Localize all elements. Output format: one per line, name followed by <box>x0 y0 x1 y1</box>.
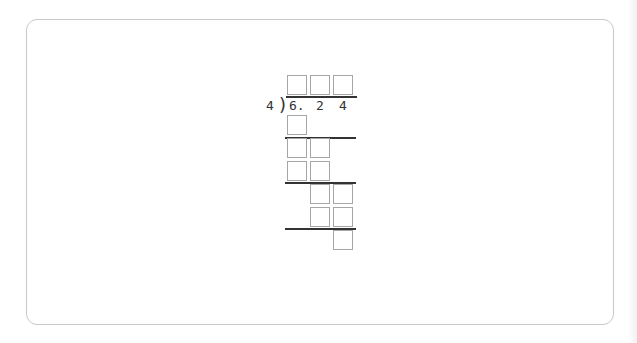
dividend-digit-2: 2 <box>316 99 324 112</box>
work-box-r4-c2[interactable] <box>310 184 330 204</box>
work-box-r3-c2[interactable] <box>310 161 330 181</box>
page: 4 ) 6. 2 4 <box>0 0 637 343</box>
work-box-r5-c3[interactable] <box>333 207 353 227</box>
work-box-r2-c1[interactable] <box>287 138 307 158</box>
dividend-digit-1: 6. <box>289 99 305 112</box>
work-box-r1-c1[interactable] <box>287 115 307 135</box>
remainder-box[interactable] <box>333 230 353 250</box>
divisor: 4 <box>266 99 274 112</box>
work-box-r3-c1[interactable] <box>287 161 307 181</box>
quotient-box-1[interactable] <box>287 75 307 95</box>
division-bracket: ) <box>279 96 286 114</box>
work-box-r2-c2[interactable] <box>310 138 330 158</box>
work-box-r4-c3[interactable] <box>333 184 353 204</box>
work-box-r5-c2[interactable] <box>310 207 330 227</box>
quotient-box-2[interactable] <box>310 75 330 95</box>
right-edge-shadow <box>628 0 637 343</box>
dividend-digit-3: 4 <box>339 99 347 112</box>
quotient-box-3[interactable] <box>333 75 353 95</box>
